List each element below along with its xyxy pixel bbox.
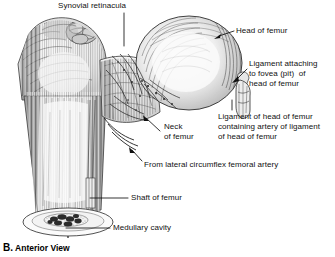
label-head-of-femur: Head of femur [236, 26, 287, 36]
shaft-cortex-band [86, 178, 95, 208]
label-ligament-fovea-line3: head of femur [249, 79, 299, 89]
label-ligament-fovea-line2: to fovea (pit) of [249, 69, 305, 79]
label-ligament-fovea-line1: Ligament attaching [249, 59, 318, 69]
caption-letter: B. [3, 242, 13, 253]
label-shaft-of-femur: Shaft of femur [131, 193, 182, 203]
figure-caption: B. Anterior View [3, 242, 70, 253]
label-lateral-circumflex-artery: From lateral circumflex femoral artery [144, 160, 278, 170]
medullary-cavity-cut-surface [23, 208, 113, 238]
lateral-circumflex-femoral-artery-branch [104, 118, 138, 150]
label-medullary-cavity: Medullary cavity [113, 223, 171, 233]
label-synovial-retinacula: Synovial retinacula [58, 1, 126, 11]
label-neck-of-femur-line2: of femur [164, 132, 194, 142]
shaft-of-femur-body [22, 92, 108, 222]
label-neck-of-femur-line1: Neck [164, 122, 182, 132]
greater-trochanter [16, 16, 108, 102]
head-of-femur-body [136, 16, 249, 110]
leader-neck-of-femur [146, 118, 160, 131]
caption-view-name: Anterior View [15, 243, 70, 253]
label-ligament-head-line1: Ligament of head of femur [218, 112, 313, 122]
label-ligament-head-line3: of head of femur [218, 132, 277, 142]
label-ligament-head-line2: containing artery of ligament [218, 122, 320, 132]
